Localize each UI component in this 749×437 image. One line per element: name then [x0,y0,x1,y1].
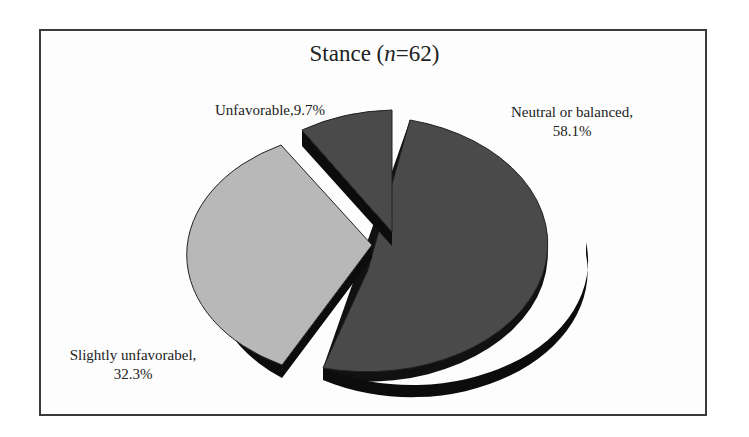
label-unfavorable: Unfavorable,9.7% [215,101,325,120]
label-slightly-unfavorable: Slightly unfavorabel, 32.3% [58,346,208,384]
label-neutral: Neutral or balanced, 58.1% [497,103,647,141]
